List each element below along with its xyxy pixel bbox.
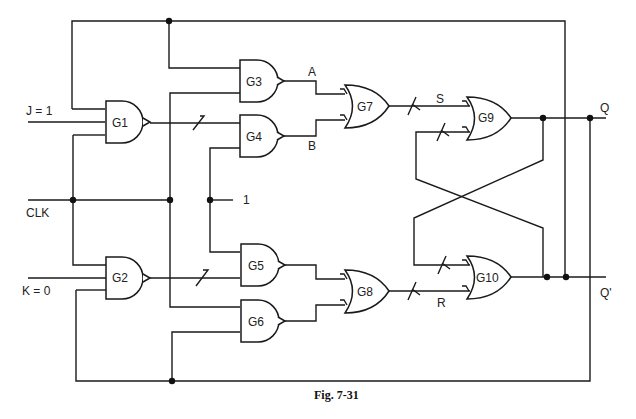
top-feedback-wire (72, 21, 565, 277)
wire-to-g6-bottom (172, 332, 240, 381)
svg-text:G5: G5 (248, 259, 264, 273)
gate-g8: G8 (340, 270, 389, 313)
gate-g4: G4 (240, 115, 284, 157)
wire-b (283, 120, 345, 136)
gate-g2: G2 (106, 257, 150, 299)
clk-label: CLK (26, 206, 49, 220)
gate-g1: G1 (106, 101, 150, 143)
junction-dots (70, 18, 593, 384)
svg-text:G6: G6 (248, 315, 264, 329)
gate-g5: G5 (241, 244, 285, 286)
wire-to-g3-top (169, 21, 240, 68)
svg-text:G4: G4 (246, 130, 262, 144)
svg-text:G10: G10 (476, 271, 499, 285)
signal-r-label: R (437, 296, 446, 310)
gate-g6: G6 (241, 300, 285, 342)
svg-text:G9: G9 (478, 111, 494, 125)
wires (28, 21, 606, 381)
svg-text:G1: G1 (112, 116, 128, 130)
gate-g3: G3 (240, 60, 284, 102)
signal-s-label: S (436, 92, 444, 106)
wire-a (283, 81, 345, 94)
bottom-feedback-wire (76, 118, 590, 381)
signal-a-label: A (308, 65, 316, 79)
gate-g9: G9 (462, 97, 511, 140)
const-one-label: 1 (243, 193, 250, 207)
output-q-label: Q (600, 101, 609, 115)
figure-caption: Fig. 7-31 (314, 388, 359, 402)
svg-text:G3: G3 (246, 75, 262, 89)
j-input-label: J = 1 (26, 104, 53, 118)
svg-text:G7: G7 (357, 100, 373, 114)
cross-wire-1 (416, 132, 543, 277)
svg-text:G2: G2 (112, 271, 128, 285)
signal-b-label: B (308, 139, 316, 153)
circuit-diagram: G1 G2 G3 G4 G5 G6 G7 G8 G9 (0, 0, 636, 419)
svg-text:G8: G8 (357, 285, 373, 299)
gate-g10: G10 (462, 256, 511, 299)
k-input-label: K = 0 (22, 284, 51, 298)
cross-wire-2 (414, 118, 543, 265)
output-q-prime-label: Q' (600, 286, 612, 300)
gate-g7: G7 (340, 85, 389, 128)
